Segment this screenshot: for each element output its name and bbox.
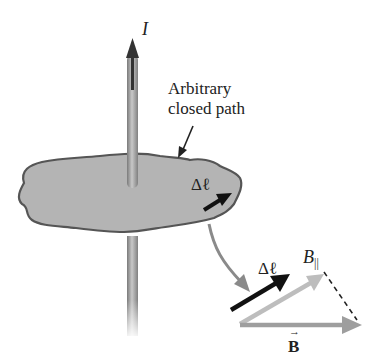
current-label: I — [142, 20, 148, 38]
perpendicular-dashed-line — [324, 272, 357, 320]
b-parallel-label: B|| — [303, 248, 319, 269]
b-vector-overarrow: → — [289, 326, 300, 337]
b-vector-arrow-icon — [240, 316, 362, 334]
b-parallel-letter: B — [303, 247, 314, 267]
b-parallel-subscript: || — [314, 256, 319, 270]
curved-pointer-arrow-icon — [209, 224, 250, 292]
path-pointer-arrow-icon — [178, 126, 193, 158]
b-vector-label: B — [288, 338, 299, 355]
path-label-line1: Arbitrary — [168, 80, 231, 97]
ampere-law-diagram: I Arbitrary closed path Δℓ Δℓ B|| → B — [0, 0, 382, 359]
dl-vector-label: Δℓ — [258, 260, 277, 277]
path-label-line2: closed path — [168, 100, 245, 117]
dl-on-path-label: Δℓ — [191, 176, 210, 193]
wire-lower — [125, 236, 140, 340]
